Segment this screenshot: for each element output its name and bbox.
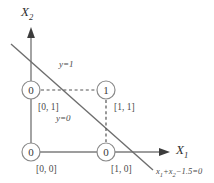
decision-boundary-equation: x1+x2−1.5=0: [156, 167, 202, 178]
node-coord-0-0: [0, 0]: [36, 165, 57, 175]
x-axis-arrowhead-icon: [159, 148, 170, 156]
node-coord-1-1: [1, 1]: [114, 103, 135, 113]
region-label-y-0: y=0: [56, 114, 71, 123]
node-value-1-1: 1: [96, 85, 116, 96]
y-axis-label-text: X: [21, 4, 29, 19]
node-value-0-0: 0: [21, 147, 41, 158]
region-label-y-1: y=1: [59, 60, 74, 69]
equation-tail: −1.5=0: [176, 166, 202, 176]
node-coord-1-0: [1, 0]: [111, 165, 132, 175]
x-axis-label-text: X: [176, 142, 184, 157]
y-axis-label-subscript: 2: [29, 12, 33, 22]
y-axis-label: X2: [21, 5, 33, 21]
node-coord-0-1: [0, 1]: [38, 103, 59, 113]
x-axis-label: X1: [176, 143, 188, 159]
node-value-1-0: 0: [96, 147, 116, 158]
y-axis-arrowhead-icon: [27, 27, 35, 38]
node-value-0-1: 0: [21, 85, 41, 96]
and-gate-decision-boundary-figure: X2 X1 y=1 y=0 0 1 0 0 [0, 1] [1, 1] [0, …: [0, 0, 214, 183]
x-axis-label-subscript: 1: [184, 150, 188, 160]
